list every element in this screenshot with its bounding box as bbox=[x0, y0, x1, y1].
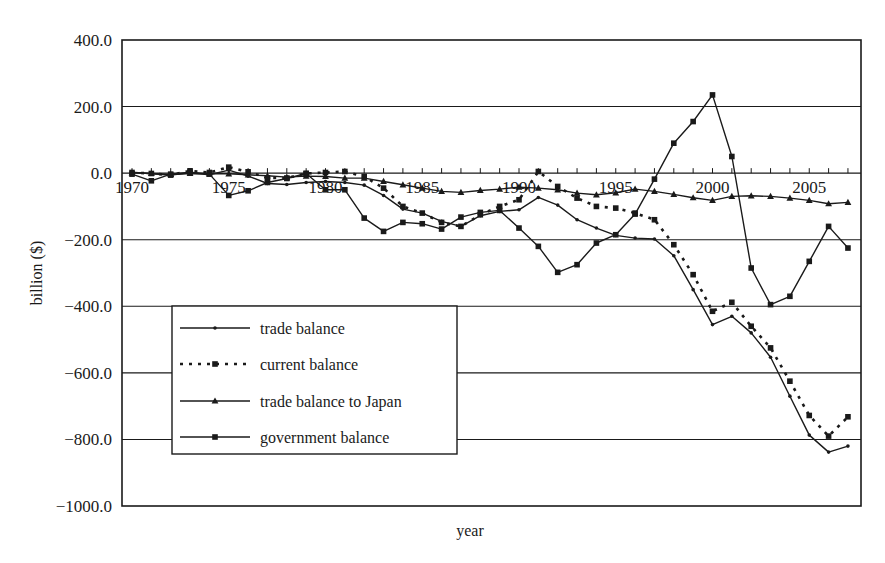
y-tick-label: 200.0 bbox=[74, 98, 112, 117]
x-tick-label: 2000 bbox=[696, 178, 730, 197]
y-tick-label: −600.0 bbox=[64, 364, 112, 383]
legend-label: government balance bbox=[260, 429, 389, 447]
x-tick-label: 2005 bbox=[792, 178, 826, 197]
legend-label: current balance bbox=[260, 356, 358, 373]
y-tick-label: −1000.0 bbox=[56, 497, 112, 516]
y-tick-label: −400.0 bbox=[64, 297, 112, 316]
series-government-balance bbox=[129, 92, 851, 307]
x-axis-title: year bbox=[456, 522, 484, 540]
legend-label: trade balance to Japan bbox=[260, 393, 402, 411]
legend-label: trade balance bbox=[260, 320, 345, 337]
y-axis-title: billion ($) bbox=[28, 241, 46, 305]
line-chart: 400.0200.00.0−200.0−400.0−600.0−800.0−10… bbox=[0, 0, 885, 563]
y-axis-tick-labels: 400.0200.00.0−200.0−400.0−600.0−800.0−10… bbox=[56, 31, 112, 516]
legend: trade balancecurrent balancetrade balanc… bbox=[172, 306, 457, 454]
y-tick-label: −800.0 bbox=[64, 430, 112, 449]
x-tick-label: 1970 bbox=[115, 178, 149, 197]
y-tick-label: −200.0 bbox=[64, 231, 112, 250]
y-tick-label: 400.0 bbox=[74, 31, 112, 50]
y-tick-label: 0.0 bbox=[91, 164, 112, 183]
